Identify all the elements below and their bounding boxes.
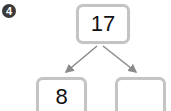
- whole-number-box: 17: [76, 4, 130, 44]
- whole-value: 17: [91, 11, 115, 37]
- arrow-right: [103, 46, 136, 72]
- part-box-right-answer[interactable]: [115, 77, 166, 111]
- part-left-value: 8: [55, 84, 67, 110]
- part-box-left: 8: [36, 77, 87, 111]
- arrow-left: [66, 46, 97, 72]
